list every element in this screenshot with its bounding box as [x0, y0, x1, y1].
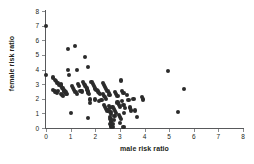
y-axis-tick [42, 128, 45, 129]
x-axis-tick [169, 129, 170, 132]
data-point [88, 101, 92, 105]
y-axis-tick-label: 8 [29, 8, 39, 15]
y-axis-tick [42, 55, 45, 56]
y-axis-tick-label: 5 [29, 51, 39, 58]
scatter-plot-figure: 012345678012345678 male risk ratio femal… [0, 0, 254, 164]
data-point [87, 92, 91, 96]
plot-data-area [46, 11, 243, 128]
y-axis-tick-label: 3 [29, 81, 39, 88]
x-axis-tick-label: 8 [237, 133, 249, 140]
data-point [111, 122, 115, 126]
data-point [61, 94, 65, 98]
y-axis-tick [42, 99, 45, 100]
x-axis-tick [71, 129, 72, 132]
data-point [121, 125, 125, 129]
data-point [104, 97, 108, 101]
data-point [126, 98, 130, 102]
x-axis-title: male risk ratio [46, 145, 243, 152]
x-axis-tick [95, 129, 96, 132]
x-axis-tick-label: 7 [212, 133, 224, 140]
data-point [107, 93, 111, 97]
data-point [141, 97, 145, 101]
x-axis-tick-label: 1 [65, 133, 77, 140]
x-axis-tick [194, 129, 195, 132]
data-point [44, 73, 48, 77]
data-point [176, 110, 180, 114]
data-point [77, 84, 81, 88]
data-point [80, 89, 84, 93]
data-point [67, 73, 71, 77]
x-axis-tick-label: 5 [163, 133, 175, 140]
y-axis-tick [42, 84, 45, 85]
x-axis-tick [145, 129, 146, 132]
y-axis-tick-label: 1 [29, 110, 39, 117]
data-point [75, 68, 79, 72]
data-point [112, 118, 116, 122]
data-point [119, 78, 123, 82]
y-axis-tick-label: 2 [29, 95, 39, 102]
data-point [86, 65, 90, 69]
y-axis-tick [42, 113, 45, 114]
data-point [123, 106, 127, 110]
y-axis-tick [42, 40, 45, 41]
data-point [66, 47, 70, 51]
y-axis-tick [42, 70, 45, 71]
x-axis-tick-label: 6 [188, 133, 200, 140]
y-axis-tick-label: 7 [29, 22, 39, 29]
data-point [99, 98, 103, 102]
data-point [65, 92, 69, 96]
data-point [44, 24, 48, 28]
data-point [135, 115, 139, 119]
data-point [125, 93, 129, 97]
data-point [69, 111, 73, 115]
data-point [131, 97, 135, 101]
x-axis-tick [243, 129, 244, 132]
x-axis-tick [46, 129, 47, 132]
y-axis-title: female risk ratio [8, 16, 15, 112]
x-axis-tick [218, 129, 219, 132]
data-point [115, 94, 119, 98]
data-point [73, 44, 77, 48]
data-point [86, 116, 90, 120]
data-point [133, 108, 137, 112]
x-axis-tick [120, 129, 121, 132]
x-axis-tick-label: 3 [114, 133, 126, 140]
y-axis-tick-label: 6 [29, 37, 39, 44]
data-point [66, 68, 70, 72]
y-axis-tick-label: 4 [29, 66, 39, 73]
data-point [110, 125, 114, 129]
data-point [182, 87, 186, 91]
data-point [83, 55, 87, 59]
x-axis-tick-label: 4 [139, 133, 151, 140]
y-axis-tick [42, 11, 45, 12]
data-point [122, 111, 126, 115]
x-axis-tick-label: 0 [40, 133, 52, 140]
data-point [166, 69, 170, 73]
x-axis-tick-label: 2 [89, 133, 101, 140]
y-axis-tick-label: 0 [29, 125, 39, 132]
